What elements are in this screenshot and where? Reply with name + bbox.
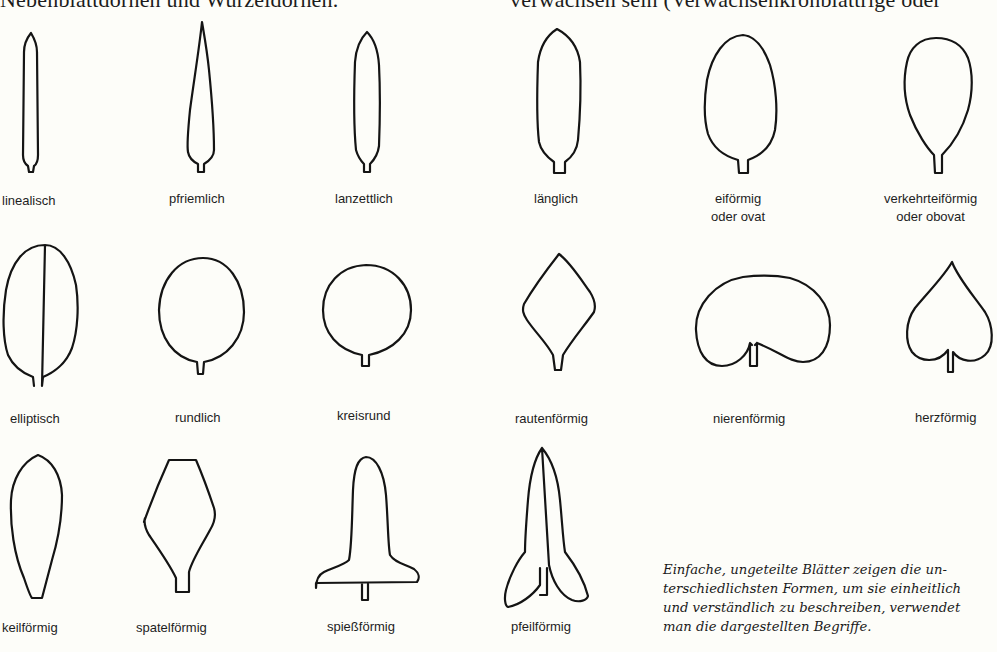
leaf-label-text: pfeilförmig bbox=[511, 619, 571, 634]
caption-line: und verständlich zu beschreiben, verwend… bbox=[663, 598, 993, 617]
label-elliptisch: elliptisch bbox=[10, 410, 60, 428]
label-verkehrteifoermig: verkehrteiförmig oder obovat bbox=[884, 190, 977, 226]
leaf-label-text: nierenförmig bbox=[713, 411, 785, 426]
label-kreisrund: kreisrund bbox=[337, 407, 390, 425]
leaf-verkehrteifoermig-icon bbox=[905, 38, 972, 173]
leaf-label-text: lanzettlich bbox=[335, 191, 393, 206]
leaf-rundlich-icon bbox=[159, 258, 244, 374]
leaf-label-text: linealisch bbox=[2, 193, 55, 208]
label-rundlich: rundlich bbox=[175, 409, 221, 427]
leaf-lanzettlich-icon bbox=[354, 32, 379, 172]
leaf-herzfoermig-icon bbox=[907, 262, 992, 372]
leaf-label-text: spießförmig bbox=[327, 619, 395, 634]
leaf-pfriemlich-icon bbox=[188, 22, 214, 172]
label-pfeilfoermig: pfeilförmig bbox=[511, 618, 571, 636]
leaf-label-text: keilförmig bbox=[2, 620, 58, 635]
label-spiessfoermig: spießförmig bbox=[327, 618, 395, 636]
leaf-label-text: spatelförmig bbox=[136, 620, 207, 635]
leaf-shapes-figure bbox=[0, 0, 997, 652]
caption-line: Einfache, ungeteilte Blätter zeigen die … bbox=[663, 560, 993, 579]
leaf-label-text: länglich bbox=[534, 191, 578, 206]
leaf-spiessfoermig-icon bbox=[316, 457, 419, 600]
label-lanzettlich: lanzettlich bbox=[335, 190, 393, 208]
label-rautenfoermig: rautenförmig bbox=[515, 410, 588, 428]
leaf-label-text: rautenförmig bbox=[515, 411, 588, 426]
leaf-keilfoermig-icon bbox=[11, 455, 62, 598]
leaf-label-text: pfriemlich bbox=[169, 191, 225, 206]
leaf-label-text: kreisrund bbox=[337, 408, 390, 423]
leaf-label-text: elliptisch bbox=[10, 411, 60, 426]
leaf-pfeilfoermig-icon bbox=[505, 448, 588, 607]
leaf-label-subtext: oder ovat bbox=[711, 208, 765, 226]
leaf-label-text: herzförmig bbox=[915, 410, 976, 425]
leaf-eifoermig-icon bbox=[705, 35, 777, 173]
leaf-label-text: rundlich bbox=[175, 410, 221, 425]
leaf-spatelfoermig-icon bbox=[144, 460, 215, 592]
label-spatelfoermig: spatelförmig bbox=[136, 619, 207, 637]
leaf-nierenfoermig-icon bbox=[696, 276, 830, 366]
caption-line: terschiedlichsten Formen, um sie einheit… bbox=[663, 579, 993, 598]
leaf-elliptisch-icon bbox=[4, 245, 78, 386]
label-eifoermig: eiförmig oder ovat bbox=[711, 190, 765, 226]
leaf-kreisrund-icon bbox=[323, 265, 411, 366]
leaf-laenglich-icon bbox=[537, 29, 580, 173]
leaf-label-subtext: oder obovat bbox=[884, 208, 977, 226]
label-herzfoermig: herzförmig bbox=[915, 409, 976, 427]
caption-line: man die dargestellten Begriffe. bbox=[663, 617, 993, 636]
leaf-label-text: eiförmig bbox=[711, 190, 765, 208]
figure-caption: Einfache, ungeteilte Blätter zeigen die … bbox=[663, 560, 993, 636]
label-keilfoermig: keilförmig bbox=[2, 619, 58, 637]
label-linealisch: linealisch bbox=[2, 192, 55, 210]
leaf-label-text: verkehrteiförmig bbox=[884, 190, 977, 208]
leaf-rautenfoermig-icon bbox=[523, 254, 595, 370]
label-laenglich: länglich bbox=[534, 190, 578, 208]
leaf-linealisch-icon bbox=[23, 33, 38, 172]
label-nierenfoermig: nierenförmig bbox=[713, 410, 785, 428]
label-pfriemlich: pfriemlich bbox=[169, 190, 225, 208]
